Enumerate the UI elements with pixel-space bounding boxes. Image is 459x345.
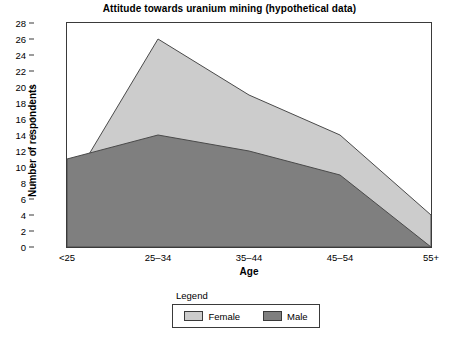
x-tick-label: 45–54: [327, 252, 353, 263]
legend-swatch-icon: [263, 311, 282, 321]
chart-plot-svg: [67, 23, 431, 247]
x-tick-label: 55+: [423, 252, 439, 263]
plot-area: [66, 22, 432, 248]
y-tick-label: 8: [21, 178, 26, 189]
y-axis-title: Number of respondents: [27, 41, 38, 241]
legend-title: Legend: [176, 290, 208, 301]
x-tick-label: <25: [59, 252, 75, 263]
legend-label: Female: [208, 311, 240, 322]
x-tick-label: 35–44: [236, 252, 262, 263]
legend-item-male[interactable]: Male: [263, 311, 308, 322]
y-tick-label: 22: [15, 66, 26, 77]
y-tick-label: 4: [21, 210, 26, 221]
legend-item-female[interactable]: Female: [184, 311, 240, 322]
y-tick-label: 26: [15, 34, 26, 45]
y-tick-label: 0: [21, 242, 26, 253]
x-axis-title: Age: [66, 266, 432, 277]
legend-swatch-icon: [184, 311, 203, 321]
x-tick-label: 25–34: [145, 252, 171, 263]
y-tick-label: 28: [15, 18, 26, 29]
y-tick-label: 20: [15, 82, 26, 93]
chart-title: Attitude towards uranium mining (hypothe…: [0, 3, 459, 14]
y-tick-label: 12: [15, 146, 26, 157]
y-tick-label: 10: [15, 162, 26, 173]
y-tick-mark: [29, 39, 34, 40]
chart-container: Attitude towards uranium mining (hypothe…: [0, 0, 459, 345]
y-tick-label: 6: [21, 194, 26, 205]
y-tick-label: 24: [15, 50, 26, 61]
y-tick-label: 14: [15, 130, 26, 141]
y-tick-label: 16: [15, 114, 26, 125]
legend: FemaleMale: [172, 304, 320, 328]
y-tick-label: 2: [21, 226, 26, 237]
y-tick-label: 18: [15, 98, 26, 109]
legend-label: Male: [287, 311, 308, 322]
y-tick-mark: [29, 23, 34, 24]
y-tick-mark: [29, 247, 34, 248]
